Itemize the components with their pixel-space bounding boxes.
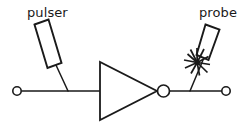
schematic-diagram: pulser probe [0,0,245,133]
probe-label: probe [199,6,237,19]
inverter-gate[interactable] [100,62,170,120]
pulser-component[interactable] [35,20,69,92]
pulser-label: pulser [27,6,68,19]
output-terminal[interactable] [222,87,230,95]
input-terminal[interactable] [13,87,21,95]
